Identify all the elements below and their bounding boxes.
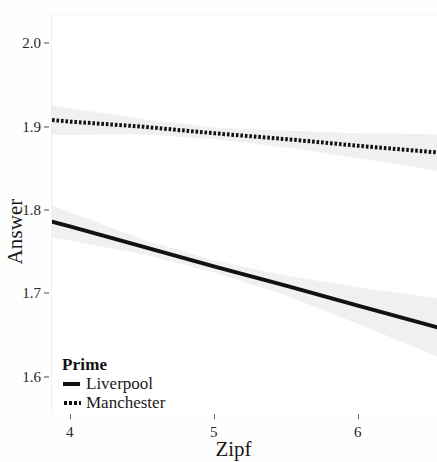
y-tick-label: 1.7 — [0, 285, 41, 302]
y-tick-label: 1.6 — [0, 368, 41, 385]
y-tick-label: 1.9 — [0, 118, 41, 135]
y-axis-tick-group: 1.61.71.81.92.0 — [0, 0, 50, 462]
y-tick-mark — [44, 376, 49, 377]
y-tick-mark — [44, 126, 49, 127]
legend-item-manchester[interactable]: Manchester — [62, 394, 165, 412]
x-tick-mark — [214, 414, 215, 419]
y-tick-mark — [44, 293, 49, 294]
x-tick-mark — [70, 414, 71, 419]
y-tick-mark — [44, 43, 49, 44]
legend-label-liverpool: Liverpool — [86, 375, 153, 393]
legend-title: Prime — [62, 355, 165, 374]
x-tick-mark — [358, 414, 359, 419]
y-tick-mark — [44, 209, 49, 210]
confidence-ribbon — [52, 206, 437, 357]
chart-legend: Prime Liverpool Manchester — [62, 355, 165, 412]
y-tick-label: 1.8 — [0, 201, 41, 218]
x-axis-title-text: Zipf — [215, 437, 251, 461]
plot-panel — [51, 14, 437, 414]
y-tick-label: 2.0 — [0, 35, 41, 52]
legend-key-solid-line-icon — [62, 377, 83, 391]
legend-item-liverpool[interactable]: Liverpool — [62, 375, 165, 393]
legend-key-dotted-line-icon — [62, 396, 83, 410]
confidence-ribbon-group — [52, 105, 437, 357]
chart-figure: Answer 1.61.71.81.92.0 456 Zipf Prime Li… — [0, 0, 437, 462]
series-line-liverpool — [52, 222, 437, 328]
confidence-ribbon — [52, 105, 437, 171]
x-axis-title: Zipf — [0, 437, 437, 462]
legend-label-manchester: Manchester — [86, 394, 165, 412]
